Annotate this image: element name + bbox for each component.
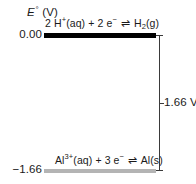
tick-value-aluminium: −1.66 — [0, 163, 42, 175]
equilibrium-arrow-icon: ⇌ — [127, 154, 138, 166]
tick-value-hydrogen: 0.00 — [0, 28, 42, 40]
level-bar-aluminium — [44, 169, 156, 173]
eq-product-state: (g) — [146, 17, 159, 29]
eq-state: (aq) + 3 e — [73, 154, 119, 166]
equation-aluminium: Al3+(aq) + 3 e− ⇌ Al(s) — [55, 152, 163, 168]
eq-electron-charge: − — [112, 15, 116, 24]
equation-hydrogen: 2 H+(aq) + 2 e− ⇌ H2(g) — [45, 15, 159, 31]
bracket-cap-top — [156, 35, 163, 36]
eq-coefficient: Al — [55, 154, 65, 166]
eq-coefficient: 2 H — [45, 17, 62, 29]
eq-product: H — [134, 17, 142, 29]
eq-product: Al — [141, 154, 151, 166]
potential-difference-label: 1.66 V — [164, 96, 196, 108]
potential-difference-bracket — [155, 35, 164, 171]
equilibrium-arrow-icon: ⇌ — [120, 17, 131, 29]
level-bar-hydrogen — [44, 33, 156, 38]
degree-symbol: ° — [35, 5, 38, 14]
eq-electron-charge: − — [120, 152, 124, 161]
eq-charge: 3+ — [65, 152, 74, 161]
bracket-cap-bottom — [156, 170, 163, 171]
standard-reduction-potential-diagram: E° (V) 2 H+(aq) + 2 e− ⇌ H2(g) 0.00 Al3+… — [0, 0, 196, 184]
axis-symbol: E — [27, 6, 35, 18]
eq-state: (aq) + 2 e — [66, 17, 112, 29]
